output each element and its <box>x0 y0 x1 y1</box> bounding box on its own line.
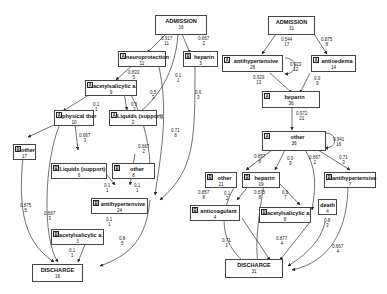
node-acetylsalicylic-left[interactable]: A acetylsalicylic a. 9 <box>85 80 137 96</box>
node-neuroprotection[interactable]: A neuroprotection 11 <box>118 51 166 67</box>
group-tag-icon: A <box>87 82 93 88</box>
edge-label: 0.11 <box>134 183 140 193</box>
edge-label: 0.6672 <box>198 36 209 46</box>
node-title: acetylsalicylic a. <box>260 210 310 217</box>
node-heparin-right[interactable]: A heparin 36 <box>262 91 320 108</box>
node-title: antihypertensive <box>92 201 147 208</box>
edge-label: 0.8335 <box>128 70 139 80</box>
node-death[interactable]: death 4 <box>318 199 337 215</box>
edge-label: 0.63 <box>195 90 201 100</box>
node-liquids-support-2[interactable]: B Liquids (support) 6 <box>51 163 107 179</box>
edge-label: 0.97221 <box>296 111 307 121</box>
node-admission-right[interactable]: ADMISSION 31 <box>268 16 315 35</box>
node-count: 8 <box>260 217 310 222</box>
node-count: 16 <box>156 25 206 30</box>
node-count: 36 <box>263 141 325 146</box>
edge-label: 0.713 <box>339 155 348 165</box>
node-count: 31 <box>226 269 282 274</box>
group-tag-icon: B <box>261 209 267 215</box>
edge-label: 0.8578 <box>254 154 265 164</box>
group-tag-icon: A <box>313 57 319 63</box>
node-discharge-right[interactable]: DISCHARGE 31 <box>225 259 283 278</box>
node-acetylsalicylic-left-2[interactable]: B acetylsalicylic a. 3 <box>51 229 104 245</box>
node-liquids-support-1[interactable]: A Liquids (support) 2 <box>109 110 157 126</box>
node-other-right[interactable]: A other 36 <box>262 131 326 151</box>
group-tag-icon: B <box>326 174 332 180</box>
node-antioedema[interactable]: A antioedema 14 <box>311 55 356 72</box>
group-tag-icon: B <box>114 165 120 171</box>
node-other-left-b[interactable]: B other 8 <box>112 163 155 179</box>
node-title: death <box>319 202 336 209</box>
group-tag-icon: A <box>224 57 230 63</box>
group-tag-icon: B <box>53 231 59 237</box>
node-count: 10 <box>55 120 93 125</box>
node-physical-ther[interactable]: A physical ther 10 <box>54 110 94 126</box>
edge-label: 0.8578 <box>198 190 209 200</box>
node-title: other <box>263 134 325 141</box>
node-antihypertensive-right[interactable]: A antihypertensive 28 <box>222 55 283 72</box>
edge-label: 0.6673 <box>44 211 55 221</box>
node-acetylsalicylic-right[interactable]: B acetylsalicylic a. 8 <box>259 207 311 223</box>
edge-label: 0.11 <box>69 248 75 258</box>
edge-label: 0.718 <box>171 128 180 138</box>
group-tag-icon: A <box>264 133 270 139</box>
node-heparin-right-b[interactable]: B heparin 19 <box>242 172 280 188</box>
node-discharge-left[interactable]: DISCHARGE 16 <box>32 264 83 282</box>
node-anticoagulant[interactable]: B anticoagulant 4 <box>190 205 240 221</box>
group-tag-icon: A <box>264 93 270 99</box>
node-other-right-b[interactable]: B other 21 <box>205 172 237 188</box>
node-count: 36 <box>263 101 319 106</box>
node-count: 28 <box>223 65 282 70</box>
group-tag-icon: B <box>192 207 198 213</box>
node-other-left-a[interactable]: B other 17 <box>13 144 36 160</box>
node-count: 24 <box>92 208 147 213</box>
node-count: 3 <box>52 239 103 244</box>
edge-label: 0.53 <box>150 90 156 100</box>
node-title: DISCHARGE <box>226 262 282 269</box>
node-count: 4 <box>319 209 336 214</box>
node-heparin-left[interactable]: B heparin 3 <box>183 51 218 67</box>
node-title: heparin <box>263 94 319 101</box>
node-antihypertensive-right-b[interactable]: B antihypertensive 7 <box>324 172 376 188</box>
node-title: ADMISSION <box>269 19 314 26</box>
node-title: antihypertensive <box>325 175 375 182</box>
edge-label: 0.11 <box>93 102 99 112</box>
node-count: 6 <box>52 173 106 178</box>
edge-label: 0.6672 <box>309 155 320 165</box>
node-title: antihypertensive <box>223 58 282 65</box>
node-admission-left[interactable]: ADMISSION 16 <box>155 15 207 35</box>
edge-label: 0.11 <box>106 217 112 227</box>
node-count: 14 <box>312 65 355 70</box>
node-count: 21 <box>206 182 236 187</box>
group-tag-icon: B <box>53 165 59 171</box>
edge-label: 0.94116 <box>333 137 344 147</box>
node-title: acetylsalicylic a. <box>52 232 103 239</box>
edge-label: 0.91711 <box>161 36 172 46</box>
edge-label: 0.92913 <box>253 75 264 85</box>
group-tag-icon: B <box>207 174 213 180</box>
edge-label: 0.8758 <box>254 190 265 200</box>
node-count: 8 <box>113 173 154 178</box>
edge-label: 0.11 <box>104 183 110 193</box>
edge-label: 0.711 <box>222 238 231 248</box>
edge-label: 0.99 <box>314 76 320 86</box>
node-antihypertensive-left[interactable]: B antihypertensive 24 <box>91 198 148 214</box>
edge-label: 0.99 <box>287 156 293 166</box>
node-title: ADMISSION <box>156 18 206 25</box>
edge-label: 0.6673 <box>79 133 90 143</box>
node-title: anticoagulant <box>191 208 239 215</box>
node-count: 3 <box>184 61 217 66</box>
edge-label: 0.8758 <box>321 37 332 47</box>
group-tag-icon: A <box>56 112 62 118</box>
edge-label: 0.8774 <box>276 236 287 246</box>
node-count: 16 <box>33 274 82 279</box>
edge-label: 0.54417 <box>281 37 292 47</box>
node-count: 31 <box>269 26 314 31</box>
node-count: 19 <box>243 182 279 187</box>
node-title: Liquids (support) <box>52 166 106 173</box>
edge-label: 0.83 <box>324 218 330 228</box>
edge-label: 0.87 <box>282 190 288 200</box>
group-tag-icon: A <box>120 53 126 59</box>
node-count: 9 <box>86 90 136 95</box>
group-tag-icon: B <box>93 200 99 206</box>
